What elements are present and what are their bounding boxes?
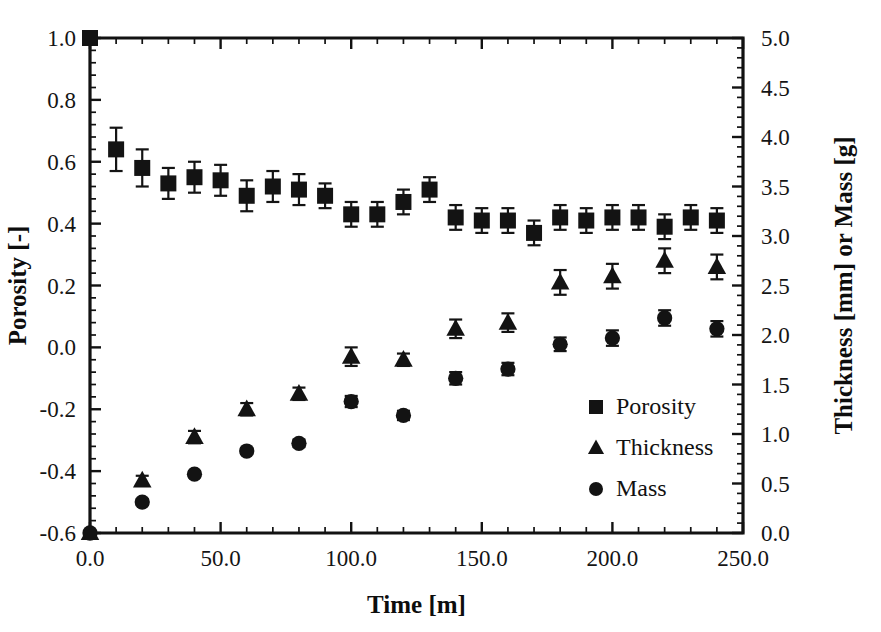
data-point <box>186 169 202 185</box>
y-axis-title: Porosity [-] <box>4 226 31 346</box>
x-tick-label: 200.0 <box>587 546 639 571</box>
y2-tick-label: 0.5 <box>761 472 790 497</box>
y-tick-label: 0.6 <box>47 150 76 175</box>
x-axis-title: Time [m] <box>367 591 466 618</box>
data-point <box>552 209 568 225</box>
data-point <box>526 225 542 241</box>
data-point <box>135 494 150 509</box>
series-mass <box>82 310 724 540</box>
y2-tick-label: 4.5 <box>761 76 790 101</box>
y-tick-label: 0.4 <box>47 212 76 237</box>
data-point <box>160 175 176 191</box>
data-point <box>603 266 622 283</box>
data-point <box>499 313 518 330</box>
y2-tick-label: 5.0 <box>761 26 790 51</box>
data-point <box>422 182 438 198</box>
data-point <box>448 209 464 225</box>
y2-tick-label: 3.5 <box>761 175 790 200</box>
x-tick-label: 250.0 <box>717 546 769 571</box>
data-point <box>291 436 306 451</box>
data-point <box>317 188 333 204</box>
y2-tick-label: 1.0 <box>761 422 790 447</box>
data-point <box>655 251 674 268</box>
y-tick-label: -0.2 <box>40 397 76 422</box>
legend-label-mass: Mass <box>616 475 667 501</box>
data-point <box>82 30 98 46</box>
data-point <box>446 319 465 336</box>
data-point <box>134 160 150 176</box>
data-point <box>239 443 254 458</box>
axes-layer: 0.050.0100.0150.0200.0250.0-0.6-0.4-0.20… <box>40 26 790 571</box>
x-tick-label: 150.0 <box>456 546 508 571</box>
data-point <box>265 179 281 195</box>
y-tick-label: 0.8 <box>47 88 76 113</box>
data-point <box>709 321 724 336</box>
y-tick-label: 0.0 <box>47 335 76 360</box>
data-point <box>708 257 727 274</box>
y2-axis-title: Thickness [mm] or Mass [g] <box>830 136 857 434</box>
y2-tick-label: 2.0 <box>761 323 790 348</box>
legend-marker-mass <box>589 482 603 496</box>
data-point <box>657 219 673 235</box>
data-point <box>369 206 385 222</box>
data-point <box>343 206 359 222</box>
y-tick-label: 1.0 <box>47 26 76 51</box>
data-point <box>500 361 515 376</box>
data-point <box>133 471 152 488</box>
data-point <box>187 467 202 482</box>
data-point <box>500 213 516 229</box>
legend-label-thickness: Thickness <box>616 434 713 460</box>
y2-tick-label: 4.0 <box>761 125 790 150</box>
chart-figure: 0.050.0100.0150.0200.0250.0-0.6-0.4-0.20… <box>0 0 881 632</box>
y2-tick-label: 0.0 <box>761 521 790 546</box>
legend-label-porosity: Porosity <box>616 393 696 419</box>
data-point <box>605 330 620 345</box>
data-point <box>342 347 361 364</box>
data-point <box>551 273 570 290</box>
legend-marker-thickness <box>588 440 604 455</box>
y2-tick-label: 3.0 <box>761 224 790 249</box>
data-point <box>213 172 229 188</box>
data-point <box>474 213 490 229</box>
data-point <box>108 141 124 157</box>
data-point <box>448 371 463 386</box>
x-tick-label: 0.0 <box>76 546 105 571</box>
series-porosity <box>82 30 725 245</box>
x-tick-label: 50.0 <box>200 546 240 571</box>
y2-tick-label: 2.5 <box>761 274 790 299</box>
chart-canvas: 0.050.0100.0150.0200.0250.0-0.6-0.4-0.20… <box>0 0 881 632</box>
legend-marker-porosity <box>589 400 603 414</box>
data-point <box>683 209 699 225</box>
data-point <box>578 213 594 229</box>
y-tick-label: -0.6 <box>40 521 76 546</box>
data-point <box>239 188 255 204</box>
data-point <box>396 408 411 423</box>
legend-layer: PorosityThicknessMass <box>588 393 713 501</box>
data-point <box>344 394 359 409</box>
data-point <box>553 337 568 352</box>
y-tick-label: 0.2 <box>47 274 76 299</box>
data-point <box>604 209 620 225</box>
data-point <box>709 213 725 229</box>
y2-tick-label: 1.5 <box>761 373 790 398</box>
data-layer <box>81 30 726 541</box>
data-point <box>82 525 97 540</box>
data-point <box>657 310 672 325</box>
x-tick-label: 100.0 <box>325 546 377 571</box>
data-point <box>631 209 647 225</box>
data-point <box>395 194 411 210</box>
y-tick-label: -0.4 <box>40 459 77 484</box>
data-point <box>291 182 307 198</box>
